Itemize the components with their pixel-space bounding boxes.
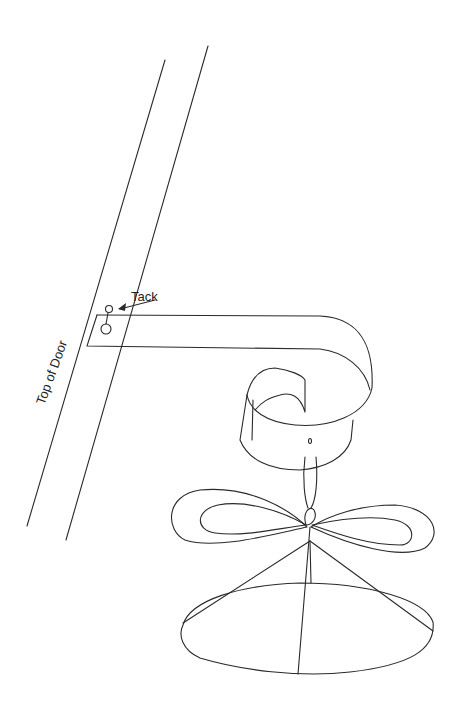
tack-label: Tack (131, 289, 158, 304)
tack-icon (101, 300, 155, 334)
bow (171, 489, 434, 552)
cone-shade (181, 527, 433, 674)
hanging-string (304, 457, 317, 508)
paper-strip (87, 315, 372, 470)
diagram-canvas (0, 0, 466, 720)
hole-icon (309, 439, 312, 444)
arrow-icon (118, 303, 126, 311)
door-top-edge (27, 46, 208, 540)
